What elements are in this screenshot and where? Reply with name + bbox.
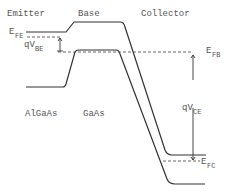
efb-label-sub: FB [212,51,220,59]
base-label: Base [78,9,100,19]
emitter-label: Emitter [7,9,45,19]
efe-label-sub: FE [15,32,23,40]
collector-label: Collector [141,9,190,19]
efb-label-main: E [206,46,211,56]
qvbe-label-sub: BE [35,45,43,53]
band-diagram: Emitter Base Collector E FE qV BE E FB q… [0,0,233,195]
qvbe-arrow [57,38,63,51]
qvce-label-sub: CE [193,108,201,116]
algaas-label: AlGaAs [25,109,57,119]
conduction-band [26,22,206,155]
efe-label-main: E [9,27,14,37]
gaas-label: GaAs [83,109,105,119]
efc-label-main: E [201,157,206,167]
efc-label-sub: FC [207,162,215,170]
qvbe-label-main: qV [24,40,35,50]
qvce-label-main: qV [182,103,193,113]
